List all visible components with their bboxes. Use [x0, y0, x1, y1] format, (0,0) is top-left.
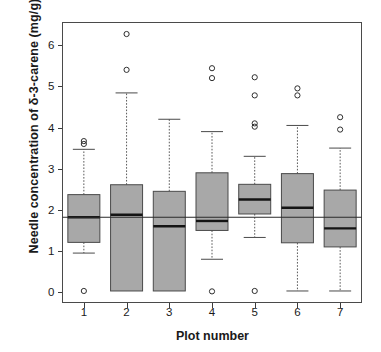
boxplot-figure: Needle concentration of δ-3-carene (mg/g… [0, 0, 381, 352]
outlier-point [81, 288, 86, 293]
outlier-point [252, 288, 257, 293]
box-iqr [153, 191, 185, 291]
boxplot-box [324, 115, 356, 291]
boxplot-box [196, 66, 228, 294]
outlier-point [252, 121, 257, 126]
outlier-point [209, 66, 214, 71]
box-iqr [111, 185, 143, 291]
outlier-point [338, 115, 343, 120]
outlier-point [338, 127, 343, 132]
outlier-point [124, 67, 129, 72]
boxplot-box [68, 138, 100, 293]
outlier-point [295, 93, 300, 98]
outlier-point [252, 75, 257, 80]
boxplot-box [153, 119, 185, 291]
boxplot-box [111, 31, 143, 291]
outlier-point [252, 93, 257, 98]
boxplot-box [239, 75, 271, 294]
outlier-point [209, 75, 214, 80]
boxes-layer [68, 31, 356, 294]
outlier-point [295, 86, 300, 91]
outlier-point [124, 31, 129, 36]
plot-canvas [0, 0, 381, 352]
box-iqr [324, 190, 356, 247]
boxplot-box [281, 86, 313, 291]
outlier-point [209, 289, 214, 294]
box-iqr [68, 195, 100, 243]
